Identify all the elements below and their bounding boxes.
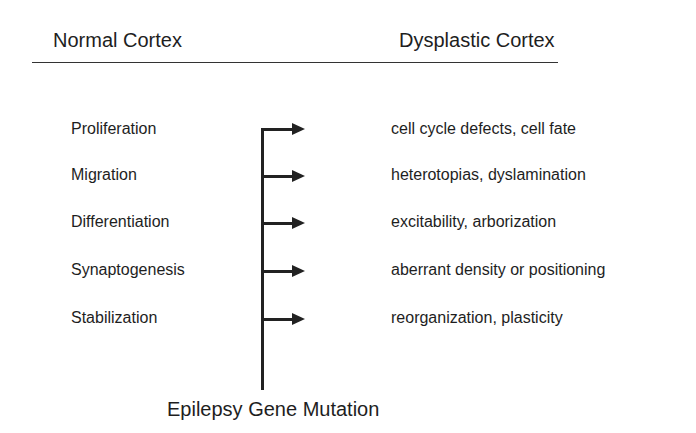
epilepsy-gene-mutation-label: Epilepsy Gene Mutation	[167, 398, 379, 421]
stage-label-synaptogenesis: Synaptogenesis	[71, 261, 185, 279]
effect-label-differentiation: excitability, arborization	[391, 213, 556, 231]
effect-label-proliferation: cell cycle defects, cell fate	[391, 120, 576, 138]
dysplastic-cortex-header: Dysplastic Cortex	[399, 29, 555, 52]
stage-label-differentiation: Differentiation	[71, 213, 169, 231]
arrowhead-icon	[292, 123, 305, 135]
stage-label-migration: Migration	[71, 166, 137, 184]
stage-label-proliferation: Proliferation	[71, 120, 156, 138]
right-arrow-icon	[261, 270, 293, 273]
normal-cortex-header: Normal Cortex	[53, 29, 182, 52]
header-divider	[32, 62, 558, 63]
arrowhead-icon	[292, 217, 305, 229]
right-arrow-icon	[261, 318, 293, 321]
effect-label-migration: heterotopias, dyslamination	[391, 166, 586, 184]
gene-mutation-trunk-line	[261, 128, 264, 390]
right-arrow-icon	[261, 128, 293, 131]
effect-label-stabilization: reorganization, plasticity	[391, 309, 563, 327]
arrowhead-icon	[292, 265, 305, 277]
arrowhead-icon	[292, 313, 305, 325]
effect-label-synaptogenesis: aberrant density or positioning	[391, 261, 605, 279]
arrowhead-icon	[292, 170, 305, 182]
stage-label-stabilization: Stabilization	[71, 309, 157, 327]
right-arrow-icon	[261, 175, 293, 178]
right-arrow-icon	[261, 222, 293, 225]
